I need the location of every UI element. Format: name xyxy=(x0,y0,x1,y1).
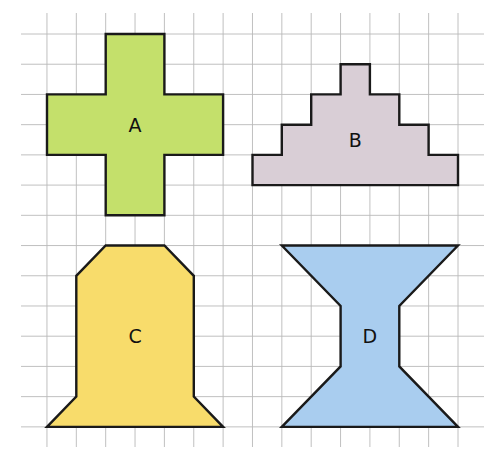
shapes-on-grid-diagram: A B C D xyxy=(0,0,489,460)
shape-b-polygon xyxy=(253,64,459,185)
shape-a-label: A xyxy=(129,114,142,136)
shape-b-staircase: B xyxy=(253,64,459,185)
shape-a-cross: A xyxy=(47,34,223,215)
shape-b-label: B xyxy=(349,129,362,151)
shape-c-label: C xyxy=(128,325,141,347)
shape-d-label: D xyxy=(363,325,378,347)
